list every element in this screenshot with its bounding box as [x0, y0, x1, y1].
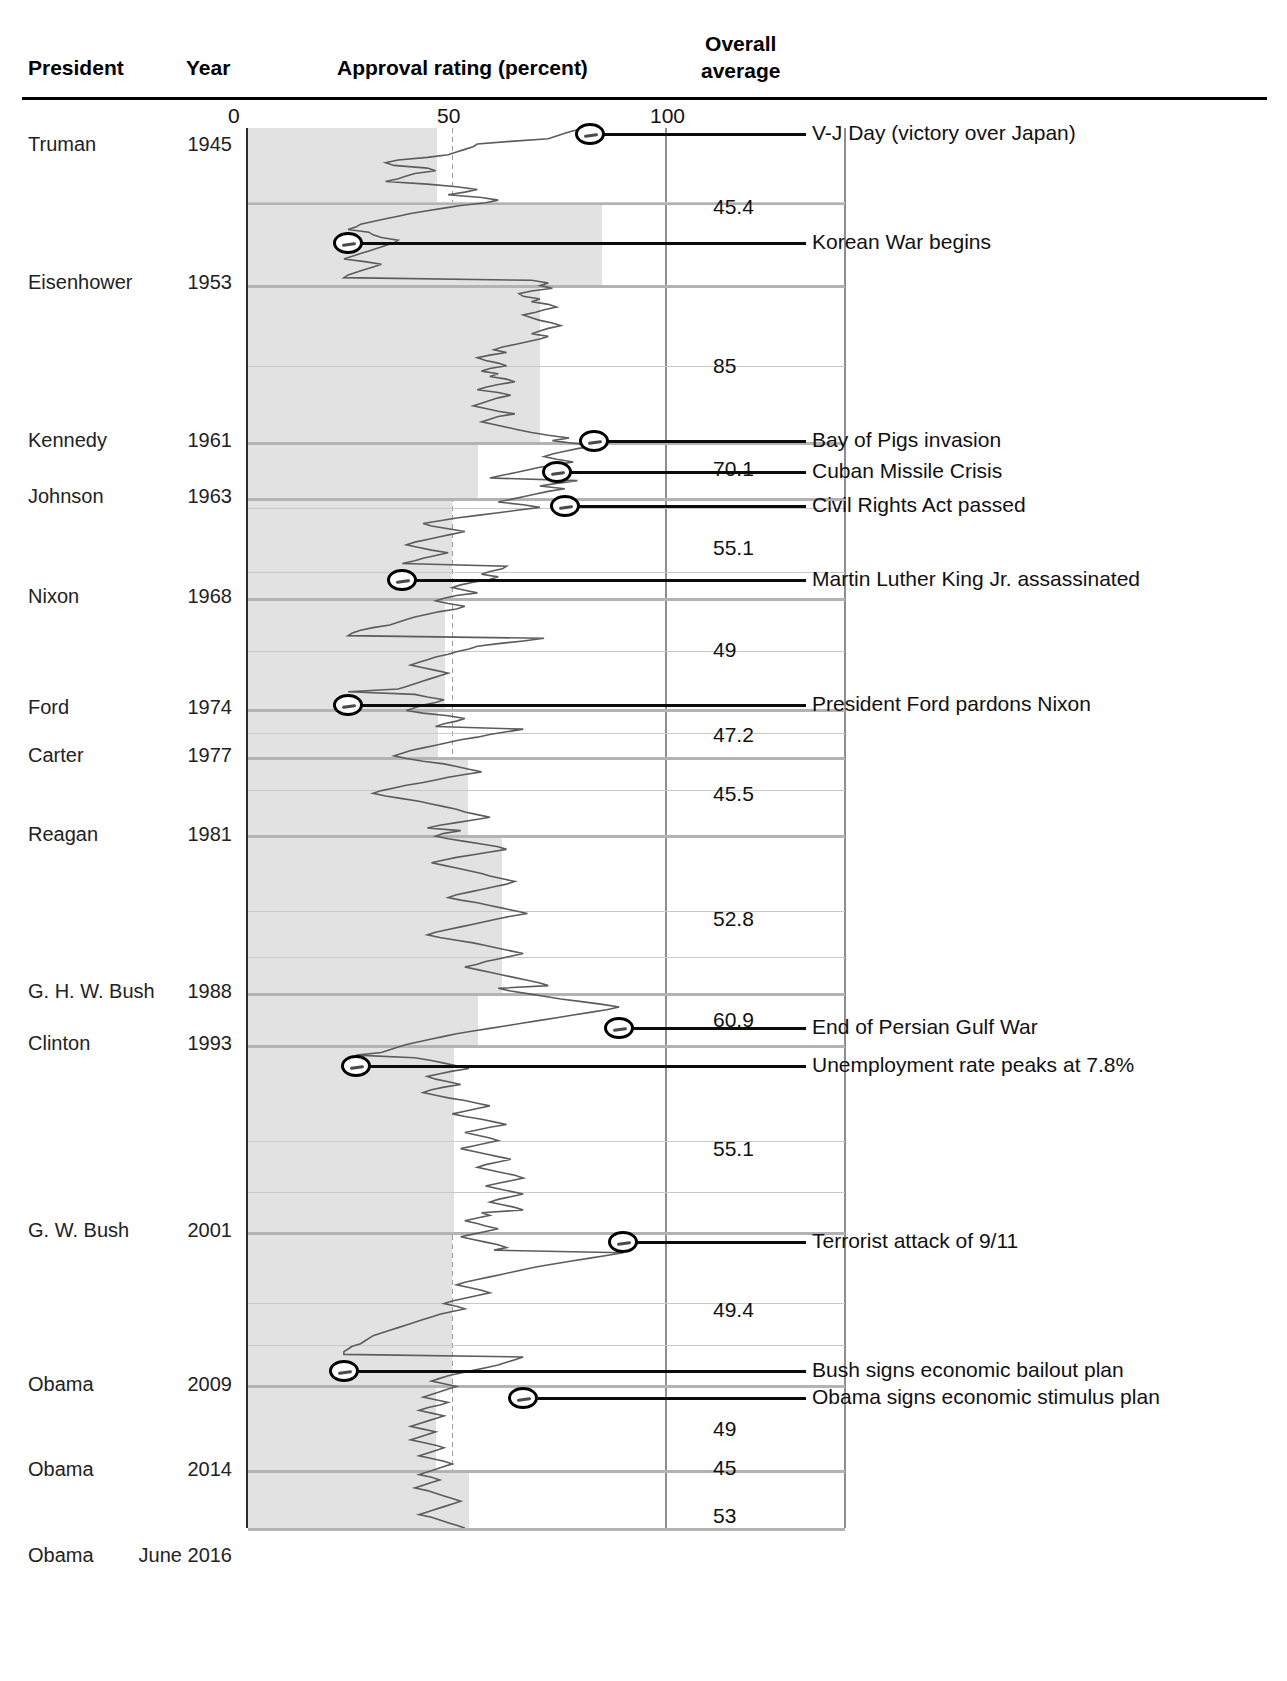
annotation-leader-line [354, 1370, 806, 1373]
overall-average-value: 49 [713, 1417, 736, 1441]
approval-rating-series [248, 128, 845, 1528]
president-start-year: 1961 [90, 429, 232, 452]
annotation-leader-line [633, 1241, 806, 1244]
axis-tick-0: 0 [228, 104, 240, 128]
president-name: Obama [28, 1544, 94, 1567]
annotation-marker-icon[interactable] [575, 123, 605, 145]
president-start-year: 1993 [90, 1032, 232, 1055]
annotation-label: End of Persian Gulf War [812, 1015, 1038, 1039]
president-start-year: June 2016 [90, 1544, 232, 1567]
annotation-leader-line [604, 440, 806, 443]
president-start-year: 1945 [90, 133, 232, 156]
annotation-leader-line [358, 242, 806, 245]
overall-average-value: 53 [713, 1504, 736, 1528]
overall-average-value: 45.4 [713, 195, 754, 219]
annotation-label: Bay of Pigs invasion [812, 428, 1001, 452]
overall-average-value: 47.2 [713, 723, 754, 747]
president-start-year: 1968 [90, 585, 232, 608]
annotation-marker-icon[interactable] [508, 1387, 538, 1409]
president-start-year: 1981 [90, 823, 232, 846]
annotation-leader-line [358, 704, 806, 707]
column-header-approval-rating: Approval rating (percent) [337, 56, 588, 80]
overall-average-value: 45 [713, 1456, 736, 1480]
overall-average-value: 70.1 [713, 457, 754, 481]
president-name: Obama [28, 1458, 94, 1481]
annotation-leader-line [629, 1027, 806, 1030]
axis-tick-100: 100 [650, 104, 685, 128]
president-start-year: 1974 [90, 696, 232, 719]
annotation-marker-icon[interactable] [604, 1017, 634, 1039]
annotation-label: Bush signs economic bailout plan [812, 1358, 1124, 1382]
column-header-year: Year [186, 56, 230, 80]
overall-average-value: 55.1 [713, 536, 754, 560]
president-name: Truman [28, 133, 96, 156]
overall-average-line1: Overall [701, 30, 780, 57]
annotation-label: Martin Luther King Jr. assassinated [812, 567, 1140, 591]
annotation-marker-icon[interactable] [579, 430, 609, 452]
annotation-label: President Ford pardons Nixon [812, 692, 1091, 716]
column-header-overall-average: Overall average [701, 30, 780, 84]
president-start-year: 2014 [90, 1458, 232, 1481]
annotation-label: Civil Rights Act passed [812, 493, 1026, 517]
header-divider-rule [22, 97, 1267, 100]
president-name: Nixon [28, 585, 79, 608]
president-start-year: 1988 [90, 980, 232, 1003]
annotation-marker-icon[interactable] [333, 232, 363, 254]
annotation-leader-line [567, 471, 806, 474]
president-name: Ford [28, 696, 69, 719]
president-start-year: 2001 [90, 1219, 232, 1242]
overall-average-value: 49 [713, 638, 736, 662]
overall-average-value: 55.1 [713, 1137, 754, 1161]
approval-rating-chart: President Year Approval rating (percent)… [0, 0, 1287, 1681]
annotation-label: Unemployment rate peaks at 7.8% [812, 1053, 1134, 1077]
annotation-label: Obama signs economic stimulus plan [812, 1385, 1160, 1409]
annotation-label: Cuban Missile Crisis [812, 459, 1002, 483]
overall-average-value: 45.5 [713, 782, 754, 806]
annotation-label: Terrorist attack of 9/11 [812, 1229, 1018, 1253]
president-start-year: 1953 [90, 271, 232, 294]
president-start-year: 2009 [90, 1373, 232, 1396]
annotation-marker-icon[interactable] [333, 694, 363, 716]
overall-average-line2: average [701, 57, 780, 84]
annotation-marker-icon[interactable] [542, 461, 572, 483]
annotation-leader-line [600, 133, 806, 136]
overall-average-value: 49.4 [713, 1298, 754, 1322]
overall-average-value: 52.8 [713, 907, 754, 931]
president-name: Clinton [28, 1032, 90, 1055]
president-name: Reagan [28, 823, 98, 846]
annotation-leader-line [366, 1065, 806, 1068]
president-start-year: 1963 [90, 485, 232, 508]
overall-average-value: 85 [713, 354, 736, 378]
axis-tick-50: 50 [437, 104, 460, 128]
president-name: Carter [28, 744, 84, 767]
president-name: Obama [28, 1373, 94, 1396]
annotation-marker-icon[interactable] [329, 1360, 359, 1382]
annotation-label: V-J Day (victory over Japan) [812, 121, 1076, 145]
column-header-president: President [28, 56, 124, 80]
annotation-label: Korean War begins [812, 230, 991, 254]
plot-area [248, 128, 845, 1528]
president-start-year: 1977 [90, 744, 232, 767]
president-boundary-line [248, 1528, 845, 1531]
annotation-leader-line [575, 505, 806, 508]
annotation-leader-line [412, 579, 806, 582]
annotation-marker-icon[interactable] [550, 495, 580, 517]
annotation-leader-line [533, 1397, 806, 1400]
